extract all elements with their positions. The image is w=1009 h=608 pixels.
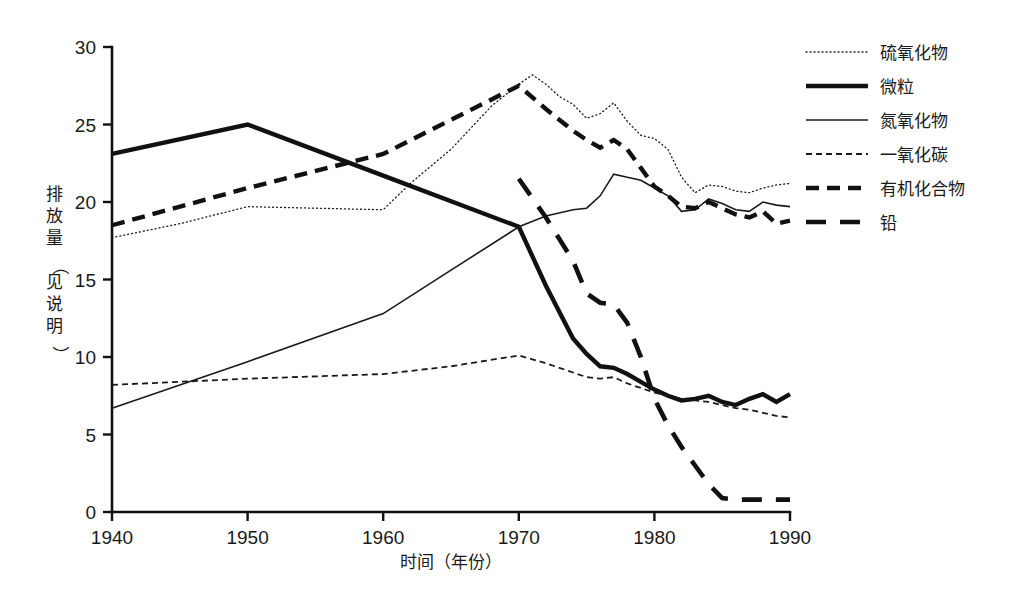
legend-label-4: 有机化合物 [880,180,965,199]
chart-canvas: 051015202530 194019501960197019801990 硫氧… [0,0,1009,608]
y-tick-label: 15 [75,270,96,291]
emissions-line-chart: 051015202530 194019501960197019801990 硫氧… [0,0,1009,608]
x-tick-label: 1990 [769,527,811,548]
x-tick-label: 1970 [498,527,540,548]
legend-label-0: 硫氧化物 [880,44,948,63]
data-series-group [112,75,790,500]
y-axis-title-char: 排 [46,185,63,204]
y-tick-label: 0 [85,502,96,523]
x-tick-label: 1950 [226,527,268,548]
y-axis-title-char: ） [50,346,69,363]
chart-legend: 硫氧化物微粒氮氧化物一氧化碳有机化合物铅 [806,44,965,233]
y-axis-title-char: 量 [46,229,63,248]
x-tick-label: 1940 [91,527,133,548]
y-tick-label: 25 [75,115,96,136]
legend-label-2: 氮氧化物 [880,112,948,131]
y-axis-title-char: 明 [46,317,63,336]
series-line-0 [112,75,790,238]
y-axis-title-char: （ [50,258,69,275]
y-axis-title: 排放量（见说明） [46,185,70,363]
series-line-5 [519,179,790,500]
series-line-3 [112,355,790,417]
legend-label-1: 微粒 [880,78,914,97]
x-axis: 194019501960197019801990 [91,512,811,548]
y-tick-label: 10 [75,347,96,368]
legend-label-3: 一氧化碳 [880,146,948,165]
y-axis-title-char: 说 [46,295,63,314]
x-tick-label: 1980 [633,527,675,548]
y-axis-title-char: 见 [46,273,63,292]
y-tick-label: 5 [85,425,96,446]
y-axis: 051015202530 [75,37,112,523]
series-line-4 [112,86,790,226]
series-line-1 [112,125,790,406]
y-tick-label: 20 [75,192,96,213]
x-axis-title: 时间（年份） [400,553,502,572]
legend-label-5: 铅 [880,214,897,233]
y-tick-label: 30 [75,37,96,58]
y-axis-title-char: 放 [46,207,63,226]
x-tick-label: 1960 [362,527,404,548]
